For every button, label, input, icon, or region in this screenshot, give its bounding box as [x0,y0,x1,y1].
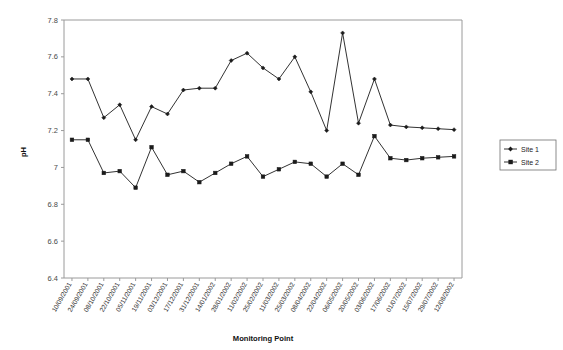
data-point[interactable] [70,77,74,81]
data-point[interactable] [261,175,265,179]
data-point[interactable] [452,155,456,159]
series-line [72,136,454,188]
y-tick-label: 6.4 [48,274,58,283]
y-axis-title: pH [19,147,28,157]
data-point[interactable] [277,167,281,171]
series-line [72,33,454,140]
series-1 [70,31,456,142]
data-point[interactable] [70,138,74,142]
data-point[interactable] [150,105,154,109]
data-point[interactable] [102,171,106,175]
data-point[interactable] [357,173,361,177]
data-point[interactable] [293,160,297,164]
legend-label[interactable]: Site 2 [521,159,539,166]
data-point[interactable] [420,156,424,160]
data-point[interactable] [341,31,345,35]
data-point[interactable] [229,162,233,166]
data-point[interactable] [134,138,138,142]
x-axis-title: Monitoring Point [233,334,294,343]
data-point[interactable] [213,171,217,175]
data-point[interactable] [389,156,393,160]
legend-label[interactable]: Site 1 [521,146,539,153]
chart-canvas: 6.46.66.877.27.47.67.810/09/200124/09/20… [0,0,563,350]
data-point[interactable] [166,173,170,177]
data-point[interactable] [325,129,329,133]
data-point[interactable] [150,145,154,149]
data-point[interactable] [325,175,329,179]
data-point[interactable] [309,90,313,94]
data-point[interactable] [357,121,361,125]
data-point[interactable] [245,155,249,159]
data-point[interactable] [373,134,377,138]
data-point[interactable] [452,128,456,132]
data-point[interactable] [134,186,138,190]
legend-marker-square-icon [508,160,512,164]
y-tick-label: 7.8 [48,16,58,25]
y-tick-label: 6.6 [48,237,58,246]
data-point[interactable] [309,162,313,166]
y-tick-label: 7.2 [48,126,58,135]
data-point[interactable] [388,123,392,127]
data-point[interactable] [118,169,122,173]
series-2 [70,134,456,189]
data-point[interactable] [86,138,90,142]
data-point[interactable] [86,77,90,81]
data-point[interactable] [182,169,186,173]
y-tick-label: 7.4 [48,89,58,98]
data-point[interactable] [229,59,233,63]
data-point[interactable] [341,162,345,166]
y-axis-title-group: pH [19,147,28,157]
y-tick-label: 6.8 [48,200,58,209]
data-point[interactable] [198,180,202,184]
data-point[interactable] [436,127,440,131]
data-point[interactable] [197,86,201,90]
data-point[interactable] [436,155,440,159]
data-point[interactable] [404,125,408,129]
data-point[interactable] [404,158,408,162]
y-tick-label: 7 [54,163,58,172]
data-point[interactable] [213,86,217,90]
ph-line-chart: 6.46.66.877.27.47.67.810/09/200124/09/20… [0,0,563,350]
data-point[interactable] [420,126,424,130]
y-tick-label: 7.6 [48,52,58,61]
legend: Site 1Site 2 [500,140,556,170]
data-point[interactable] [372,77,376,81]
